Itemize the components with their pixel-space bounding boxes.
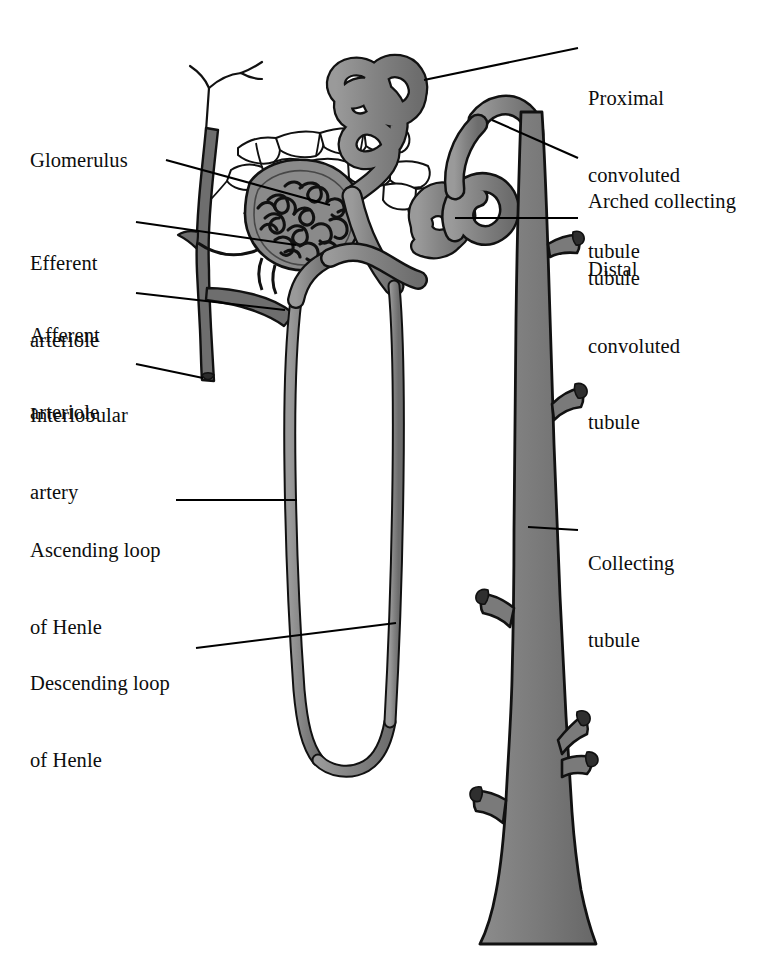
loop-of-henle (290, 252, 418, 771)
label-distal-line1: Distal (588, 257, 680, 283)
label-distal-line2: convoluted (588, 334, 680, 360)
label-interlobular-artery-line1: Interlobular (30, 403, 128, 429)
label-glomerulus: Glomerulus (30, 148, 128, 174)
label-descending-loop-of-henle: Descending loop of Henle (30, 620, 170, 824)
leader-proximal-tubule (424, 48, 578, 80)
label-collecting-line1: Collecting (588, 551, 674, 577)
label-afferent-arteriole-line1: Afferent (30, 323, 100, 349)
nephron-diagram: Glomerulus Efferent arteriole Afferent a… (0, 0, 779, 975)
label-collecting-line2: tubule (588, 628, 674, 654)
label-descending-loop-line1: Descending loop (30, 671, 170, 697)
label-collecting-tubule: Collecting tubule (588, 500, 674, 704)
label-descending-loop-line2: of Henle (30, 748, 170, 774)
label-ascending-loop-line1: Ascending loop (30, 538, 161, 564)
leader-interlobular-artery (136, 364, 203, 378)
label-distal-convoluted-tubule: Distal convoluted tubule (588, 206, 680, 487)
label-distal-line3: tubule (588, 410, 680, 436)
label-proximal-line1: Proximal (588, 86, 680, 112)
